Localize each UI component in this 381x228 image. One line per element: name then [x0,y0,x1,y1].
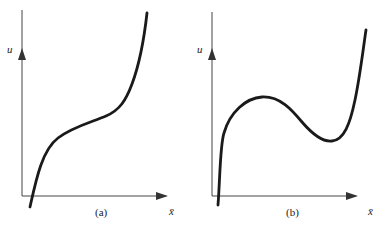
panel-a-y-label: u [7,43,13,55]
panel-a-y-axis-arrow [18,48,26,60]
panel-b-y-label: u [197,43,203,55]
panel-b-x-label: x̄ [368,205,373,217]
panel-b-caption: (b) [286,206,299,218]
panel-a [18,10,168,207]
panel-a-caption: (a) [95,206,107,218]
panel-b-y-axis-arrow [208,48,216,60]
panel-a-x-axis-arrow [156,192,168,200]
panel-b [208,12,366,205]
diagram-canvas [0,0,381,228]
panel-a-x-label: x̄ [169,205,174,217]
panel-a-curve [30,13,147,207]
panel-b-curve [218,30,366,205]
panel-b-x-axis-arrow [346,192,358,200]
